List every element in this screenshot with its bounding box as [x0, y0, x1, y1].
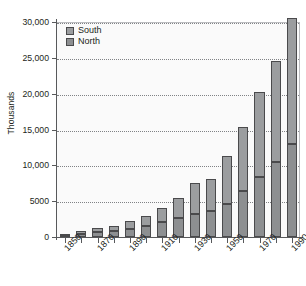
bar-segment-north[interactable]: [92, 232, 102, 237]
bar-segment-south[interactable]: [238, 127, 248, 191]
bar-segment-south[interactable]: [206, 179, 216, 211]
bar-segment-south[interactable]: [141, 216, 151, 226]
y-tick-label: 30,000: [22, 18, 49, 27]
bar-segment-south[interactable]: [190, 183, 200, 214]
bar-group[interactable]: [271, 61, 281, 237]
plot-area: [57, 22, 300, 237]
bar-segment-south[interactable]: [271, 61, 281, 163]
bar-segment-south[interactable]: [157, 208, 167, 222]
bar-segment-south[interactable]: [60, 234, 70, 236]
bar-segment-south[interactable]: [287, 18, 297, 143]
bar-group[interactable]: [190, 183, 200, 237]
y-tick-label: 25,000: [22, 53, 49, 62]
bar-group[interactable]: [60, 234, 70, 237]
chart-container: Thousands 0500010,00015,00020,00025,0003…: [0, 0, 306, 286]
bar-segment-north[interactable]: [238, 191, 248, 237]
bar-group[interactable]: [287, 18, 297, 237]
bar-group[interactable]: [254, 92, 264, 237]
legend-swatch-south-icon: [66, 27, 74, 35]
bar-segment-north[interactable]: [157, 222, 167, 237]
bar-segment-north[interactable]: [222, 204, 232, 237]
bar-group[interactable]: [222, 156, 232, 237]
bar-segment-south[interactable]: [125, 221, 135, 229]
legend-item-north: North: [66, 37, 102, 46]
bar-segment-south[interactable]: [173, 198, 183, 218]
legend-label-south: South: [78, 26, 102, 35]
y-tick-label: 15,000: [22, 125, 49, 134]
y-tick-label: 20,000: [22, 89, 49, 98]
chart-legend: South North: [66, 26, 102, 48]
bar-segment-south[interactable]: [92, 228, 102, 232]
bar-segment-north[interactable]: [190, 214, 200, 237]
bar-group[interactable]: [173, 198, 183, 237]
bar-segment-north[interactable]: [287, 144, 297, 237]
bar-segment-south[interactable]: [109, 226, 119, 231]
bar-group[interactable]: [238, 127, 248, 237]
bar-segment-north[interactable]: [125, 229, 135, 237]
legend-item-south: South: [66, 26, 102, 35]
bar-group[interactable]: [206, 179, 216, 237]
bar-series-group: [57, 23, 299, 237]
y-tick-label: 10,000: [22, 161, 49, 170]
bar-segment-south[interactable]: [222, 156, 232, 204]
bar-group[interactable]: [92, 228, 102, 237]
bar-segment-south[interactable]: [254, 92, 264, 177]
legend-label-north: North: [78, 37, 100, 46]
bar-group[interactable]: [157, 208, 167, 237]
y-tick-label: 5000: [30, 197, 49, 206]
x-axis-labels: 18501870189019101930195019701990: [0, 243, 306, 286]
bar-group[interactable]: [125, 221, 135, 237]
bar-segment-north[interactable]: [254, 177, 264, 237]
legend-swatch-north-icon: [66, 38, 74, 46]
bar-segment-north[interactable]: [271, 162, 281, 237]
